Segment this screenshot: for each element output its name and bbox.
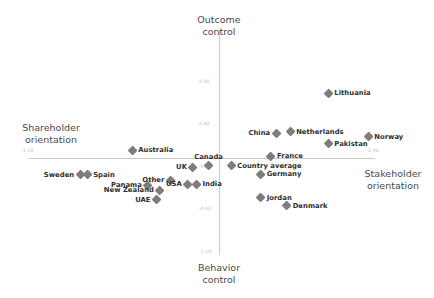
data-point-label: China <box>248 129 270 137</box>
y-tick-label: -0.60 <box>199 206 211 211</box>
y-tick-label: 0.40 <box>199 121 210 126</box>
diamond-marker-icon <box>323 88 333 98</box>
diamond-marker-icon <box>82 170 92 180</box>
data-point-label: Jordan <box>267 194 292 202</box>
diamond-marker-icon <box>191 179 201 189</box>
data-point-label: Pakistan <box>334 140 367 148</box>
axis-title-outcome-control: Outcome control <box>174 14 264 37</box>
diamond-marker-icon <box>226 161 236 171</box>
data-point-label: UK <box>176 163 187 171</box>
diamond-marker-icon <box>271 128 281 138</box>
axis-title-stakeholder-orientation: Stakeholder orientation <box>352 168 434 191</box>
y-axis-line <box>219 30 220 255</box>
scatter-plot: Outcome control Behavior control Shareho… <box>0 0 434 298</box>
x-tick-label: -1.10 <box>21 148 33 153</box>
diamond-marker-icon <box>256 193 266 203</box>
data-point-label: Lithuania <box>334 89 370 97</box>
data-point-label: Denmark <box>293 202 328 210</box>
diamond-marker-icon <box>151 195 161 205</box>
data-point-label: Spain <box>93 171 115 179</box>
diamond-marker-icon <box>256 169 266 179</box>
diamond-marker-icon <box>285 127 295 137</box>
data-point-label: Netherlands <box>296 128 344 136</box>
axis-title-shareholder-orientation: Shareholder orientation <box>8 122 94 145</box>
data-point-label: Germany <box>267 170 302 178</box>
data-point-label: India <box>202 180 221 188</box>
data-point-label: UAE <box>135 196 150 204</box>
axis-title-behavior-control: Behavior control <box>174 262 264 285</box>
diamond-marker-icon <box>127 145 137 155</box>
diamond-marker-icon <box>203 161 213 171</box>
diamond-marker-icon <box>282 201 292 211</box>
data-point-label: Sweden <box>44 171 74 179</box>
data-point-label: Canada <box>194 153 223 161</box>
data-point-label: Country average <box>237 162 302 170</box>
data-point-label: Australia <box>138 146 173 154</box>
diamond-marker-icon <box>188 162 198 172</box>
data-point-label: France <box>277 152 303 160</box>
diamond-marker-icon <box>323 138 333 148</box>
y-tick-label: 0.90 <box>199 79 210 84</box>
data-point-label: USA <box>166 180 182 188</box>
data-point-label: Norway <box>374 133 403 141</box>
diamond-marker-icon <box>266 151 276 161</box>
x-tick-label: 0.90 <box>368 148 379 153</box>
y-tick-label: -1.10 <box>199 249 211 254</box>
data-point-label: New Zealand <box>104 186 154 194</box>
